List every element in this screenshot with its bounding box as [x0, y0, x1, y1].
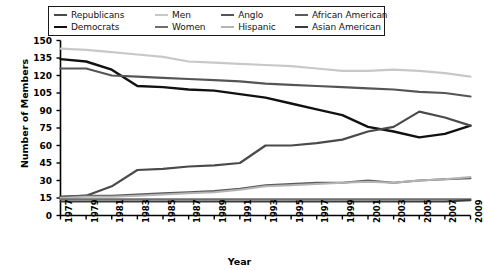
- x-tick-label-1991: 1991: [243, 199, 253, 223]
- legend-row-1: Republicans Men Anglo African American: [54, 9, 379, 21]
- legend-item-asian-american[interactable]: Asian American: [295, 22, 379, 33]
- chart-legend: Republicans Men Anglo African American D…: [48, 6, 385, 36]
- x-tick-label-1989: 1989: [218, 199, 228, 223]
- x-tick-label-2001: 2001: [372, 199, 382, 223]
- legend-label-anglo: Anglo: [238, 10, 263, 21]
- legend-label-asian-american: Asian American: [312, 22, 381, 33]
- x-axis-title: Year: [0, 256, 479, 267]
- x-tick-label-1977: 1977: [64, 199, 74, 223]
- legend-swatch-republicans: [54, 14, 67, 16]
- x-tick-label-2007: 2007: [448, 199, 458, 223]
- legend-swatch-women: [155, 26, 168, 28]
- legend-item-men[interactable]: Men: [155, 10, 221, 21]
- x-tick-label-1993: 1993: [269, 199, 279, 223]
- legend-item-anglo[interactable]: Anglo: [221, 10, 295, 21]
- x-tick-label-1987: 1987: [192, 199, 202, 223]
- x-tick-label-1997: 1997: [320, 199, 330, 223]
- legend-item-democrats[interactable]: Democrats: [54, 22, 155, 33]
- legend-label-men: Men: [172, 10, 191, 21]
- legend-label-african-american: African American: [312, 10, 387, 21]
- x-tick-label-1981: 1981: [115, 199, 125, 223]
- x-tick-label-1979: 1979: [90, 199, 100, 223]
- legend-swatch-african-american: [295, 14, 308, 16]
- y-axis-title: Number of Members: [19, 44, 30, 184]
- x-tick-label-1999: 1999: [346, 199, 356, 223]
- legend-swatch-hispanic: [221, 26, 234, 28]
- legend-item-women[interactable]: Women: [155, 22, 221, 33]
- legend-swatch-democrats: [54, 26, 67, 28]
- x-tick-label-1985: 1985: [167, 199, 177, 223]
- legend-label-republicans: Republicans: [71, 10, 124, 21]
- x-tick-label-2009: 2009: [474, 199, 484, 223]
- x-tick-label-1983: 1983: [141, 199, 151, 223]
- legend-item-african-american[interactable]: African American: [295, 10, 379, 21]
- legend-label-women: Women: [172, 22, 205, 33]
- legend-swatch-anglo: [221, 14, 234, 16]
- legend-item-republicans[interactable]: Republicans: [54, 10, 155, 21]
- legend-item-hispanic[interactable]: Hispanic: [221, 22, 295, 33]
- legend-label-hispanic: Hispanic: [238, 22, 276, 33]
- legend-swatch-men: [155, 14, 168, 16]
- legend-swatch-asian-american: [295, 26, 308, 28]
- legend-label-democrats: Democrats: [71, 22, 119, 33]
- x-tick-label-2005: 2005: [423, 199, 433, 223]
- x-tick-label-1995: 1995: [295, 199, 305, 223]
- x-tick-label-2003: 2003: [397, 199, 407, 223]
- legend-row-2: Democrats Women Hispanic Asian American: [54, 21, 379, 33]
